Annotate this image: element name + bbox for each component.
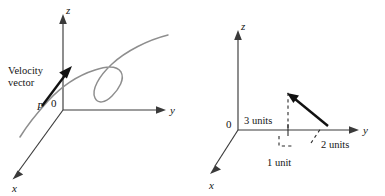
space-curve bbox=[20, 35, 168, 137]
three-units-label: 3 units bbox=[244, 115, 272, 126]
velocity-vector-label-line1: Velocity bbox=[8, 65, 44, 76]
x-axis-arrowhead-right bbox=[210, 165, 221, 174]
one-unit-label: 1 unit bbox=[267, 157, 291, 168]
y-axis-label-right: y bbox=[362, 124, 368, 136]
y-axis-label-left: y bbox=[169, 104, 175, 116]
origin-label-right: 0 bbox=[226, 118, 232, 130]
x-axis-label-right: x bbox=[208, 179, 214, 191]
point-p-label: P bbox=[36, 101, 43, 112]
panel-vector-components: z y x 0 3 units 2 units 1 unit bbox=[193, 0, 385, 196]
y-axis-right bbox=[238, 126, 359, 133]
z-axis-label-right: z bbox=[240, 20, 246, 32]
origin-label-left: 0 bbox=[51, 97, 57, 109]
y-axis-arrowhead bbox=[156, 106, 166, 113]
x-axis-label-left: x bbox=[11, 182, 17, 194]
figure-root: z y x 0 P Velocity vector bbox=[0, 0, 385, 196]
two-units-label: 2 units bbox=[321, 139, 349, 150]
x-axis-right bbox=[210, 130, 238, 174]
velocity-vector-label-line2: vector bbox=[8, 77, 35, 88]
panel-velocity-vector: z y x 0 P Velocity vector bbox=[0, 0, 193, 196]
z-axis-right bbox=[234, 30, 242, 130]
velocity-vector-arrow bbox=[42, 66, 72, 106]
component-vector-arrow bbox=[287, 93, 328, 126]
velocity-vector-arrowhead bbox=[59, 66, 72, 78]
x-axis-left bbox=[13, 110, 64, 180]
x-axis-arrowhead bbox=[13, 170, 24, 179]
y-axis-arrowhead-right bbox=[349, 126, 359, 133]
y-axis-left bbox=[63, 106, 166, 113]
z-axis-label-left: z bbox=[65, 4, 71, 16]
z-axis-left bbox=[59, 14, 67, 110]
dashed-one-unit-bracket bbox=[279, 136, 293, 146]
